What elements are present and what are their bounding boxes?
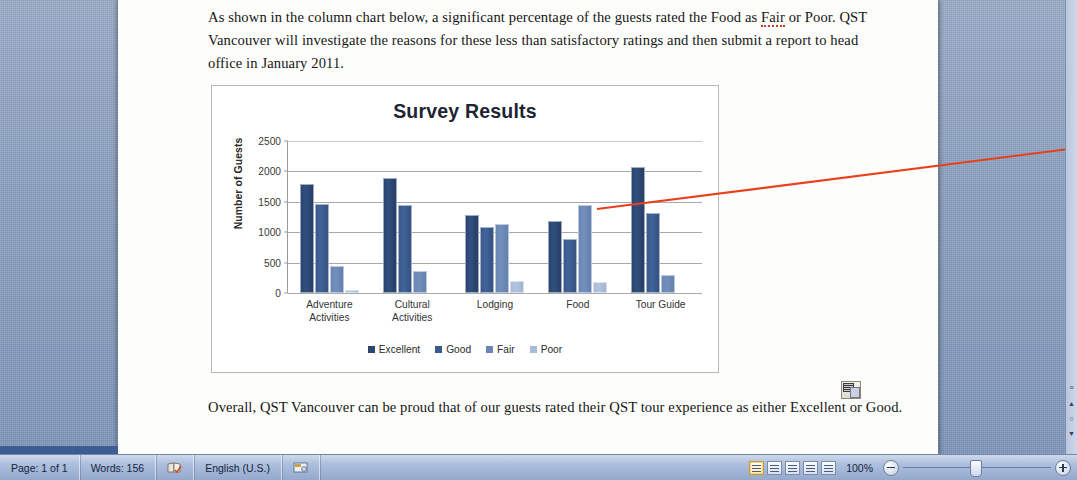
gridline-0 xyxy=(288,293,702,294)
paste-icon-clipboard xyxy=(850,387,860,398)
category-label-food: Food xyxy=(536,298,619,324)
bar-group xyxy=(288,141,371,293)
bar-fair-tour-guide[interactable] xyxy=(661,275,675,293)
paragraph-conclusion: Overall, QST Vancouver can be proud that… xyxy=(208,396,908,419)
bar-group xyxy=(536,141,619,293)
bar-group xyxy=(619,141,702,293)
bar-group xyxy=(454,141,537,293)
category-label-adventure-activities: AdventureActivities xyxy=(288,298,371,324)
y-tick-label-2500: 2500 xyxy=(258,136,281,147)
bar-excellent-tour-guide[interactable] xyxy=(631,167,645,293)
bar-excellent-food[interactable] xyxy=(548,221,562,293)
status-word-count[interactable]: Words: 156 xyxy=(80,455,157,480)
legend-item-excellent[interactable]: Excellent xyxy=(368,344,420,355)
zoom-slider-thumb[interactable] xyxy=(970,460,982,477)
view-buttons xyxy=(749,461,836,475)
view-button-web-layout[interactable] xyxy=(785,461,800,475)
bar-good-lodging[interactable] xyxy=(480,227,494,293)
view-button-draft[interactable] xyxy=(821,461,836,475)
status-bar: Page: 1 of 1 Words: 156 English (U.S.) xyxy=(0,454,1077,480)
zoom-slider-track[interactable] xyxy=(903,467,1051,468)
scrollbar-mark-1[interactable]: ▲ xyxy=(1068,400,1075,407)
chart-category-labels: AdventureActivitiesCulturalActivitiesLod… xyxy=(288,298,702,324)
bar-good-cultural-activities[interactable] xyxy=(398,205,412,293)
status-language[interactable]: English (U.S.) xyxy=(194,455,282,480)
status-bar-right: 100% xyxy=(749,460,1077,476)
legend-swatch-excellent xyxy=(368,346,375,353)
chart-legend[interactable]: ExcellentGoodFairPoor xyxy=(212,344,718,355)
chart-title: Survey Results xyxy=(212,100,718,123)
chart-bar-groups xyxy=(288,141,702,293)
word-application-window: As shown in the column chart below, a si… xyxy=(0,0,1077,480)
spell-check-icon[interactable] xyxy=(156,455,194,480)
record-macro-glyph xyxy=(293,461,308,474)
zoom-out-button[interactable] xyxy=(883,460,899,476)
bar-poor-cultural-activities[interactable] xyxy=(428,291,442,293)
record-macro-icon[interactable] xyxy=(282,455,320,480)
scrollbar-mark-2[interactable]: ○ xyxy=(1068,415,1075,422)
bar-good-tour-guide[interactable] xyxy=(646,213,660,293)
status-bar-left: Page: 1 of 1 Words: 156 English (U.S.) xyxy=(0,455,320,480)
legend-label-good: Good xyxy=(446,344,471,355)
bar-poor-lodging[interactable] xyxy=(510,281,524,293)
legend-item-good[interactable]: Good xyxy=(435,344,471,355)
bar-poor-food[interactable] xyxy=(593,282,607,293)
view-button-full-screen-reading[interactable] xyxy=(767,461,782,475)
paragraph-intro-text-a: As shown in the column chart below, a si… xyxy=(208,9,761,25)
chart-plot-area: 05001000150020002500 xyxy=(288,141,702,293)
scrollbar-mark-3[interactable]: ▼ xyxy=(1068,430,1075,437)
bar-fair-adventure-activities[interactable] xyxy=(330,266,344,293)
spell-check-glyph xyxy=(167,461,182,474)
chart-y-axis-title: Number of Guests xyxy=(233,119,244,249)
category-label-tour-guide: Tour Guide xyxy=(619,298,702,324)
legend-swatch-poor xyxy=(530,346,537,353)
y-tick-label-1500: 1500 xyxy=(258,196,281,207)
legend-label-excellent: Excellent xyxy=(379,344,420,355)
bar-poor-adventure-activities[interactable] xyxy=(345,290,359,293)
scrollbar-mark-0[interactable]: ≡ xyxy=(1068,384,1075,391)
survey-results-chart[interactable]: Survey Results Number of Guests 05001000… xyxy=(211,85,719,373)
bar-excellent-adventure-activities[interactable] xyxy=(300,184,314,293)
misspelled-word-fair: Fair xyxy=(761,9,785,27)
bar-excellent-cultural-activities[interactable] xyxy=(383,178,397,293)
y-tick-label-500: 500 xyxy=(264,257,281,268)
bar-excellent-lodging[interactable] xyxy=(465,215,479,293)
y-tick-label-1000: 1000 xyxy=(258,227,281,238)
legend-item-poor[interactable]: Poor xyxy=(530,344,563,355)
bar-group xyxy=(371,141,454,293)
bar-poor-tour-guide[interactable] xyxy=(676,291,690,293)
vertical-scrollbar[interactable]: ≡ ▲ ○ ▼ xyxy=(1065,0,1077,455)
legend-label-poor: Poor xyxy=(541,344,563,355)
status-page-indicator[interactable]: Page: 1 of 1 xyxy=(0,455,80,480)
paste-options-icon[interactable] xyxy=(841,381,861,399)
paragraph-intro: As shown in the column chart below, a si… xyxy=(208,6,886,75)
legend-item-fair[interactable]: Fair xyxy=(486,344,515,355)
legend-swatch-good xyxy=(435,346,442,353)
category-label-cultural-activities: CulturalActivities xyxy=(371,298,454,324)
view-button-print-layout[interactable] xyxy=(749,461,764,475)
view-button-outline[interactable] xyxy=(803,461,818,475)
zoom-level-label[interactable]: 100% xyxy=(840,462,879,474)
bar-good-adventure-activities[interactable] xyxy=(315,204,329,293)
document-page[interactable]: As shown in the column chart below, a si… xyxy=(118,0,938,455)
bar-good-food[interactable] xyxy=(563,239,577,293)
bar-fair-cultural-activities[interactable] xyxy=(413,271,427,293)
y-tick-label-2000: 2000 xyxy=(258,166,281,177)
zoom-in-button[interactable] xyxy=(1055,460,1071,476)
bar-fair-food[interactable] xyxy=(578,205,592,293)
category-label-lodging: Lodging xyxy=(454,298,537,324)
legend-label-fair: Fair xyxy=(497,344,515,355)
y-tick-label-0: 0 xyxy=(275,288,281,299)
bar-fair-lodging[interactable] xyxy=(495,224,509,293)
legend-swatch-fair xyxy=(486,346,493,353)
